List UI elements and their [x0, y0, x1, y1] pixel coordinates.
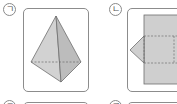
- net-figure: [130, 15, 177, 84]
- figures-drawing: [0, 0, 177, 104]
- triangular-pyramid: [31, 16, 81, 82]
